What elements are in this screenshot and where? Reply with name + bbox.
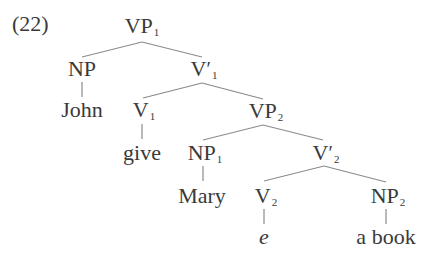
node-vp1: VP1 — [125, 14, 160, 44]
node-vp1-index: 1 — [154, 26, 160, 38]
edge-vp1-vbar1 — [142, 42, 202, 57]
leaf-john-word: John — [61, 97, 103, 122]
node-np2-category: NP — [371, 183, 399, 208]
node-vbar2-category: V — [313, 140, 329, 165]
syntax-tree-diagram: (22) VP1 NP V′1 John — [0, 0, 427, 254]
leaf-mary-word: Mary — [178, 183, 226, 208]
node-v1-category: V — [133, 97, 149, 122]
node-np-category: NP — [68, 56, 96, 81]
node-vp2-index: 2 — [278, 111, 284, 123]
edge-vp1-np — [82, 42, 142, 57]
node-vbar2: V′2 — [313, 141, 340, 171]
node-np2-index: 2 — [400, 196, 406, 208]
leaf-a-book-word: a book — [356, 224, 415, 249]
tree-edges — [0, 0, 427, 254]
node-np1-category: NP — [188, 140, 216, 165]
node-vbar2-prime: ′ — [329, 142, 333, 164]
leaf-a-book: a book — [356, 225, 415, 249]
node-np2: NP2 — [371, 184, 406, 214]
node-vp2: VP2 — [249, 99, 284, 129]
node-vbar1-category: V — [191, 56, 207, 81]
node-v2-category: V — [255, 183, 271, 208]
leaf-e: e — [259, 225, 269, 249]
node-np1-index: 1 — [217, 153, 223, 165]
node-np1: NP1 — [188, 141, 223, 171]
node-vbar1: V′1 — [191, 57, 218, 87]
node-vbar1-prime: ′ — [207, 58, 211, 80]
leaf-e-word: e — [259, 224, 269, 249]
leaf-john: John — [61, 98, 103, 122]
node-vbar2-index: 2 — [334, 153, 340, 165]
node-vp1-category: VP — [125, 13, 153, 38]
leaf-mary: Mary — [178, 184, 226, 208]
node-vp2-category: VP — [249, 98, 277, 123]
node-vbar1-index: 1 — [212, 69, 218, 81]
node-v2-index: 2 — [272, 196, 278, 208]
node-v2: V2 — [255, 184, 277, 214]
node-np: NP — [68, 57, 96, 81]
node-v1-index: 1 — [150, 110, 156, 122]
node-v1: V1 — [133, 98, 155, 128]
leaf-give: give — [123, 141, 161, 165]
leaf-give-word: give — [123, 140, 161, 165]
